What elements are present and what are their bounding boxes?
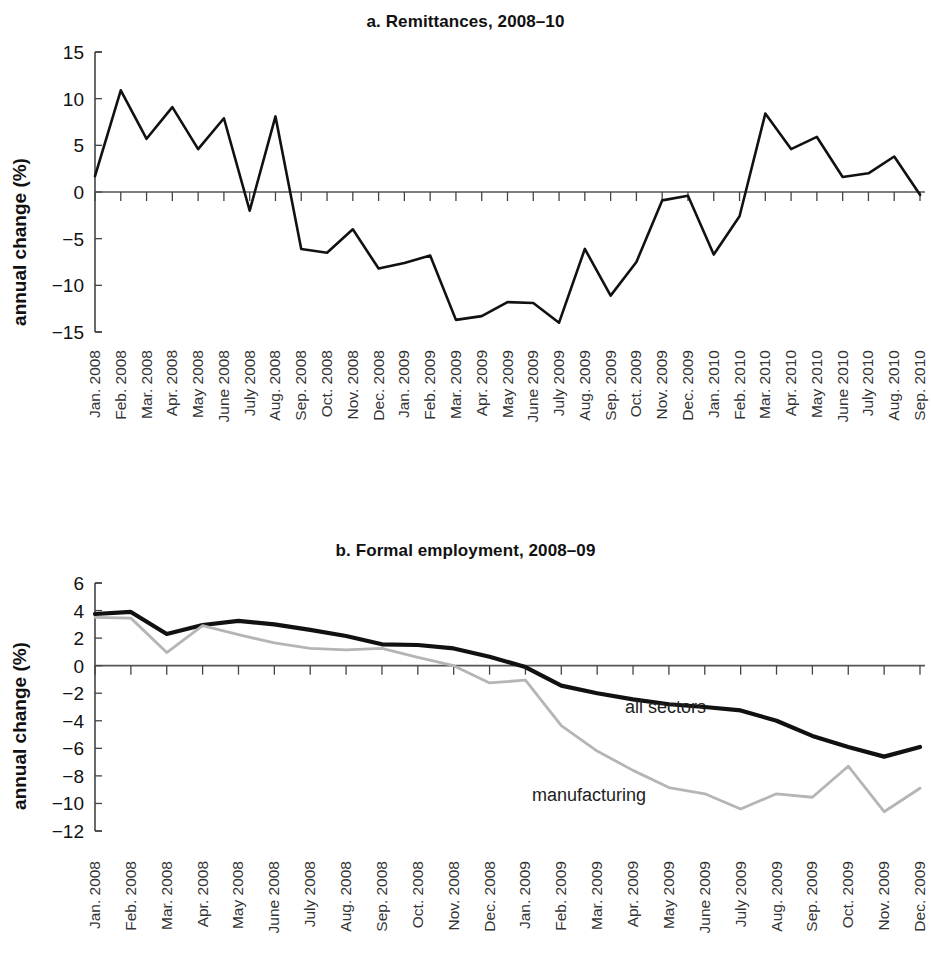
- x-tick-label: May 2009: [660, 861, 677, 929]
- series-label-all-sectors: all sectors: [625, 697, 706, 717]
- y-tick-label: −10: [52, 275, 84, 296]
- x-tick-marks-b: [95, 666, 920, 675]
- x-tick-label: Aug. 2010: [885, 350, 902, 421]
- x-tick-label: July 2010: [859, 350, 876, 417]
- y-tick-label: −8: [62, 766, 84, 787]
- y-tick-label: 10: [63, 89, 84, 110]
- series-line-manufacturing: [95, 617, 920, 811]
- x-tick-label: Oct. 2009: [627, 350, 644, 417]
- data-series-b: [95, 612, 920, 812]
- x-tick-label: Apr. 2010: [782, 350, 799, 417]
- y-axis-title-b: annual change (%): [9, 642, 30, 810]
- x-tick-label: Feb. 2008: [112, 350, 129, 420]
- y-tick-label: 6: [73, 573, 84, 594]
- x-tick-label: Jan. 2010: [705, 350, 722, 418]
- x-tick-label: May 2008: [189, 350, 206, 418]
- x-tick-label: Aug. 2008: [266, 350, 283, 421]
- x-tick-label: Jan. 2008: [86, 350, 103, 418]
- x-tick-label: July 2008: [241, 350, 258, 416]
- x-tick-label: Oct. 2008: [409, 861, 426, 928]
- y-axis-title-group-b: annual change (%): [9, 642, 30, 810]
- series-line-remittances: [95, 90, 920, 322]
- x-tick-label: Apr. 2008: [194, 861, 211, 927]
- x-tick-label: Mar. 2008: [138, 350, 155, 419]
- y-tick-label: −4: [62, 711, 84, 732]
- x-tick-label: Mar. 2008: [158, 861, 175, 930]
- x-tick-label: July 2008: [301, 861, 318, 927]
- x-tick-label: Feb. 2010: [731, 350, 748, 420]
- x-tick-label: Sep. 2008: [373, 861, 390, 932]
- x-tick-label: Mar. 2009: [588, 861, 605, 930]
- x-tick-label: Sep. 2010: [911, 350, 928, 421]
- x-tick-label: July 2009: [732, 861, 749, 927]
- x-tick-label: Aug. 2009: [768, 861, 785, 932]
- axes-b: [95, 583, 925, 831]
- x-tick-label: Nov. 2008: [445, 861, 462, 931]
- x-tick-marks-a: [95, 192, 920, 201]
- chart-panel-remittances: a. Remittances, 2008–10 annual change (%…: [0, 0, 931, 505]
- figure-page: a. Remittances, 2008–10 annual change (%…: [0, 0, 931, 970]
- chart-panel-formal-employment: b. Formal employment, 2008–09 annual cha…: [0, 505, 931, 970]
- x-tick-label: Oct. 2008: [318, 350, 335, 417]
- x-tick-label: Jan. 2009: [516, 861, 533, 929]
- x-tick-label: Mar. 2009: [447, 350, 464, 419]
- x-tick-label: Aug. 2008: [337, 861, 354, 932]
- y-axis-title-group: annual change (%): [9, 158, 30, 326]
- y-tick-label: −6: [62, 738, 84, 759]
- x-tick-label: Dec. 2008: [481, 861, 498, 932]
- x-tick-label: May 2010: [808, 350, 825, 418]
- x-tick-label: June 2008: [265, 861, 282, 933]
- formal-employment-chart-svg: annual change (%) 6420−2−4−6−8−10−12 Jan…: [0, 561, 931, 970]
- x-tick-label: Jan. 2008: [86, 861, 103, 929]
- x-tick-label: June 2010: [834, 350, 851, 423]
- y-tick-label: 5: [73, 135, 84, 156]
- x-tick-label: Dec. 2008: [370, 350, 387, 421]
- y-tick-label: 2: [73, 628, 84, 649]
- y-tick-label: −5: [62, 229, 84, 250]
- x-tick-label: Feb. 2009: [552, 861, 569, 931]
- x-tick-label: Aug. 2009: [576, 350, 593, 421]
- x-tick-label: May 2009: [499, 350, 516, 418]
- data-series-a: [95, 90, 920, 322]
- x-tick-label: Apr. 2009: [473, 350, 490, 416]
- series-line-all-sectors: [95, 612, 920, 757]
- panel-b-title: b. Formal employment, 2008–09: [0, 505, 931, 561]
- x-tick-label: Jan. 2009: [395, 350, 412, 418]
- x-tick-label: June 2009: [696, 861, 713, 933]
- x-tick-label: July 2009: [550, 350, 567, 416]
- y-tick-label: −2: [62, 683, 84, 704]
- x-tick-label: Dec. 2009: [911, 861, 928, 932]
- series-label-manufacturing: manufacturing: [532, 785, 646, 805]
- x-tick-label: Oct. 2009: [839, 861, 856, 928]
- x-tick-label: Nov. 2009: [875, 861, 892, 931]
- x-tick-label: Feb. 2009: [421, 350, 438, 420]
- x-tick-label: Sep. 2008: [292, 350, 309, 421]
- x-tick-labels-a: Jan. 2008Feb. 2008Mar. 2008Apr. 2008May …: [86, 350, 928, 423]
- y-tick-label: −15: [52, 322, 84, 343]
- x-tick-label: Sep. 2009: [803, 861, 820, 932]
- y-tick-label: 0: [73, 182, 84, 203]
- x-tick-label: Sep. 2009: [602, 350, 619, 421]
- panel-a-title: a. Remittances, 2008–10: [0, 0, 931, 32]
- y-tick-label: 0: [73, 656, 84, 677]
- x-tick-label: Nov. 2008: [344, 350, 361, 420]
- remittances-chart-svg: annual change (%) 151050−5−10−15 Jan. 20…: [0, 32, 931, 492]
- x-tick-label: May 2008: [229, 861, 246, 929]
- x-tick-label: Dec. 2009: [679, 350, 696, 421]
- x-tick-label: Apr. 2009: [624, 861, 641, 927]
- x-tick-labels-b: Jan. 2008Feb. 2008Mar. 2008Apr. 2008May …: [86, 861, 928, 933]
- y-axis-title-a: annual change (%): [9, 158, 30, 326]
- y-tick-label: 15: [63, 42, 84, 63]
- y-tick-label: −10: [52, 793, 84, 814]
- x-tick-label: Apr. 2008: [163, 350, 180, 416]
- x-tick-label: Feb. 2008: [122, 861, 139, 931]
- x-tick-label: Mar. 2010: [756, 350, 773, 419]
- y-tick-label: 4: [73, 601, 84, 622]
- x-tick-label: Nov. 2009: [653, 350, 670, 420]
- x-tick-label: June 2008: [215, 350, 232, 422]
- y-tick-label: −12: [52, 821, 84, 842]
- x-tick-label: June 2009: [524, 350, 541, 422]
- axes-a: [95, 52, 925, 332]
